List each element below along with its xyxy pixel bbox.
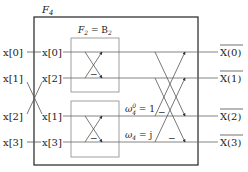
outputs: X(0) X(1) X(2) X(3) — [220, 45, 243, 148]
output-label-0: X(0) — [220, 47, 241, 58]
f2-label: F2 = B2 — [77, 25, 112, 36]
f4-label: F4 — [41, 4, 53, 17]
permuted-label-1: x[2] — [42, 73, 62, 84]
f2-block-upper — [71, 38, 119, 92]
permuted-label-2: x[1] — [42, 111, 62, 122]
input-label-2: x[2] — [3, 111, 23, 122]
minus-sign: − — [90, 69, 98, 79]
twiddle-1: ω4 = j — [125, 130, 152, 141]
input-label-1: x[1] — [3, 73, 23, 84]
stage2-butterflies — [155, 52, 185, 142]
twiddle-0: ω04 = 1 — [125, 102, 155, 116]
minus-sign: − — [168, 133, 176, 143]
minus-sign: − — [158, 107, 166, 117]
output-label-1: X(1) — [220, 73, 241, 84]
input-label-0: x[0] — [3, 47, 23, 58]
output-label-2: X(2) — [220, 111, 241, 122]
input-label-3: x[3] — [3, 137, 23, 148]
fft-butterfly-diagram: F4 F2 = B2 x[0] x[1] x[2] x[3] x[0] x[2]… — [0, 0, 248, 172]
permuted-label-3: x[3] — [42, 137, 62, 148]
f2-block-lower — [71, 101, 119, 157]
minus-sign: − — [90, 133, 98, 143]
signal-lines — [63, 52, 218, 142]
output-label-3: X(3) — [220, 137, 241, 148]
permuted-label-0: x[0] — [42, 47, 62, 58]
stage1-butterflies — [85, 52, 102, 142]
